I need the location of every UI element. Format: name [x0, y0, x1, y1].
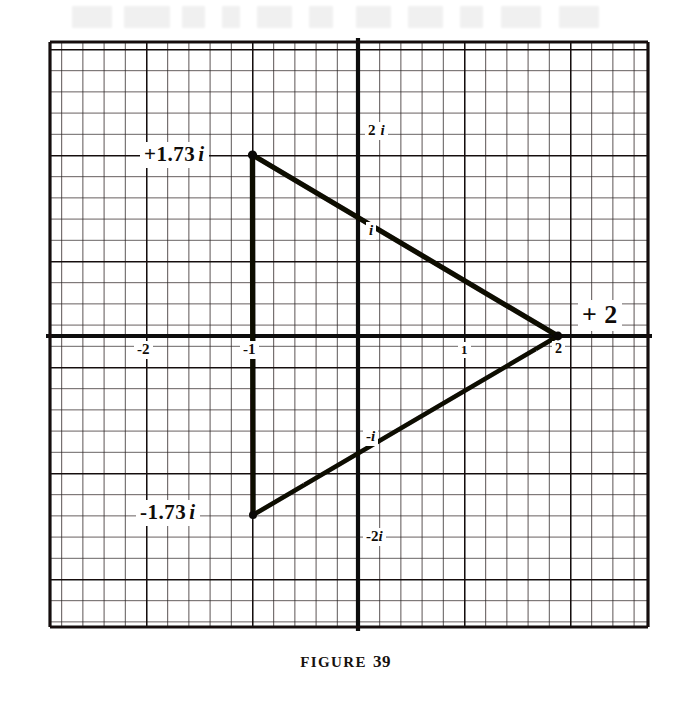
tick-label-neg-i: -i	[363, 428, 378, 446]
tick-label-neg-2i: -2i	[363, 528, 386, 546]
root-point-bottom	[249, 511, 257, 519]
figure-39-argand-diagram: 2i i -i -2i -2 -1 1 2 +1.73i -1.73i + 2 …	[0, 0, 691, 708]
tick-label-i: i	[366, 222, 376, 240]
complex-plane-plot	[0, 0, 691, 708]
figure-caption: FIGURE39	[0, 652, 691, 672]
figure-caption-prefix: FIGURE	[300, 654, 367, 670]
tick-label-neg-1: -1	[240, 341, 259, 359]
vertex-label-bottom: -1.73i	[136, 500, 200, 526]
triangle-edge-left	[253, 155, 254, 515]
tick-label-2: 2	[552, 341, 565, 358]
vertex-label-top: +1.73i	[140, 142, 209, 168]
figure-caption-number: 39	[373, 652, 391, 671]
root-point-top	[248, 150, 257, 159]
tick-label-neg-2: -2	[134, 341, 153, 359]
tick-label-2i: 2i	[365, 122, 388, 140]
tick-label-1: 1	[458, 342, 471, 358]
root-point-right	[554, 332, 563, 341]
vertex-label-right: + 2	[578, 300, 622, 331]
